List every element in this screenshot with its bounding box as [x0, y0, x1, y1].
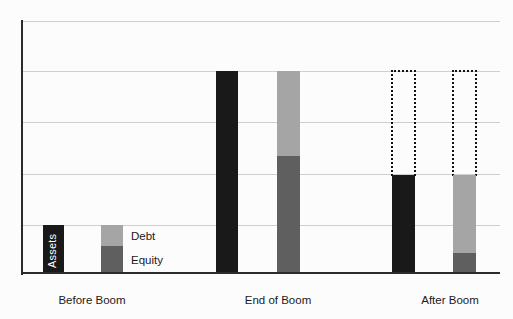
gridline-5 [22, 21, 500, 22]
gridline-3 [22, 122, 500, 123]
before-boom-debt-segment [101, 225, 123, 246]
end-of-boom-equity-segment [277, 156, 300, 272]
legend-label-debt: Debt [131, 230, 155, 242]
after-boom-equity-segment [453, 253, 476, 272]
after-boom-liabilities-ghost-outline [452, 70, 477, 176]
balance-sheet-bar-chart: Assets Debt Equity Before Boom End of Bo… [0, 0, 513, 319]
after-boom-assets-bar [392, 175, 415, 272]
before-boom-assets-bar: Assets [43, 225, 64, 272]
end-of-boom-debt-segment [277, 71, 300, 156]
assets-inline-label: Assets [47, 234, 58, 268]
y-axis-line [21, 20, 23, 275]
after-boom-debt-segment [453, 175, 476, 253]
legend-label-equity: Equity [131, 254, 163, 266]
gridline-2 [22, 174, 500, 175]
after-boom-assets-ghost-outline [391, 70, 416, 176]
gridline-1 [22, 225, 500, 226]
category-label-after-boom: After Boom [390, 294, 510, 307]
category-label-end-of-boom: End of Boom [218, 294, 338, 307]
before-boom-equity-segment [101, 246, 123, 272]
gridline-4 [22, 71, 500, 72]
category-label-before-boom: Before Boom [32, 294, 152, 307]
end-of-boom-assets-bar [216, 71, 238, 272]
x-axis-baseline [21, 272, 500, 274]
